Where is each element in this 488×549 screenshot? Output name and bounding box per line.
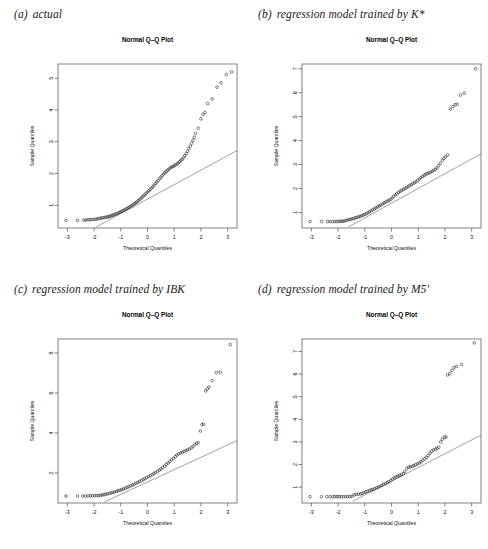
data-points xyxy=(65,71,233,222)
x-tick-label: 3 xyxy=(470,234,473,240)
data-point xyxy=(211,98,214,101)
y-tick-label: 1 xyxy=(48,204,54,207)
y-tick-label: 2 xyxy=(292,187,298,190)
y-tick-label: 7 xyxy=(292,67,298,70)
panel-c-plot: Normal Q–Q Plot-3-2-101232468Theoretical… xyxy=(0,303,244,549)
data-point xyxy=(206,102,209,105)
x-tick-label: -2 xyxy=(336,234,341,240)
y-tick-label: 8 xyxy=(48,352,54,355)
y-tick-label: 2 xyxy=(48,472,54,475)
x-tick-label: 0 xyxy=(390,509,393,515)
data-point xyxy=(459,94,462,97)
x-axis-label: Theoretical Quantiles xyxy=(367,520,416,526)
data-point xyxy=(230,71,233,74)
y-axis-label: Sample Quantiles xyxy=(29,125,35,166)
data-point xyxy=(169,460,172,463)
data-point xyxy=(216,86,219,89)
y-tick-label: 6 xyxy=(292,91,298,94)
x-tick-label: 3 xyxy=(226,509,229,515)
data-point xyxy=(202,423,205,426)
data-point xyxy=(101,494,104,497)
data-point xyxy=(326,495,329,498)
y-tick-label: 4 xyxy=(48,108,54,111)
y-tick-label: 6 xyxy=(292,373,298,376)
x-tick-label: 1 xyxy=(173,509,176,515)
y-axis-label: Sample Quantiles xyxy=(273,400,279,441)
panel-c-caption-label: (c) xyxy=(14,283,27,295)
x-tick-label: -3 xyxy=(309,234,314,240)
data-point xyxy=(439,162,442,165)
data-point xyxy=(320,495,323,498)
data-point xyxy=(199,430,202,433)
data-point xyxy=(76,495,79,498)
data-point xyxy=(220,81,223,84)
data-point xyxy=(185,152,188,155)
x-tick-label: -3 xyxy=(309,509,314,515)
data-point xyxy=(106,492,109,495)
panel-d-caption: (d)regression model trained by M5' xyxy=(258,283,429,295)
data-point xyxy=(110,492,113,495)
data-point xyxy=(84,495,87,498)
data-point xyxy=(197,127,200,130)
y-tick-label: 2 xyxy=(48,172,54,175)
qq-reference-line xyxy=(95,151,237,228)
panel-a-plot: Normal Q–Q Plot-3-2-1012312345Theoretica… xyxy=(0,28,244,274)
data-point xyxy=(446,154,449,157)
x-tick-label: -3 xyxy=(65,234,70,240)
data-point xyxy=(449,108,452,111)
data-point xyxy=(76,219,79,222)
data-point xyxy=(309,220,312,223)
data-point xyxy=(455,365,458,368)
x-tick-label: 0 xyxy=(390,234,393,240)
x-tick-label: 2 xyxy=(443,509,446,515)
data-point xyxy=(190,142,193,145)
x-tick-label: 3 xyxy=(226,234,229,240)
y-tick-label: 3 xyxy=(292,163,298,166)
x-axis-label: Theoretical Quantiles xyxy=(123,520,172,526)
panel-c-caption-text: regression model trained by IBK xyxy=(32,283,185,295)
data-point xyxy=(453,366,456,369)
data-point xyxy=(409,465,412,468)
data-point xyxy=(111,491,114,494)
panel-b-caption-label: (b) xyxy=(258,8,272,20)
data-point xyxy=(448,372,451,375)
x-axis-label: Theoretical Quantiles xyxy=(367,245,416,251)
data-point xyxy=(174,455,177,458)
panel-a-caption-text: actual xyxy=(33,8,62,20)
x-tick-label: 1 xyxy=(417,509,420,515)
data-point xyxy=(229,343,232,346)
panel-b: (b)regression model trained by K* Normal… xyxy=(244,0,488,274)
x-tick-label: -1 xyxy=(362,234,367,240)
x-tick-label: 2 xyxy=(443,234,446,240)
plot-box xyxy=(58,64,237,228)
data-point xyxy=(474,67,477,70)
y-tick-label: 3 xyxy=(48,140,54,143)
x-tick-label: 1 xyxy=(173,234,176,240)
data-point xyxy=(65,495,68,498)
data-points xyxy=(65,343,232,497)
qq-plot-figure: (a)actual Normal Q–Q Plot-3-2-1012312345… xyxy=(0,0,488,549)
x-tick-label: -1 xyxy=(362,509,367,515)
data-point xyxy=(188,147,191,150)
data-point xyxy=(215,371,218,374)
data-point xyxy=(463,92,466,95)
data-point xyxy=(460,363,463,366)
chart-title: Normal Q–Q Plot xyxy=(122,311,174,319)
chart-title: Normal Q–Q Plot xyxy=(366,311,418,319)
data-point xyxy=(103,493,106,496)
y-tick-label: 5 xyxy=(292,395,298,398)
x-tick-label: -3 xyxy=(65,509,70,515)
panel-d-caption-label: (d) xyxy=(258,283,272,295)
y-tick-label: 5 xyxy=(292,115,298,118)
panel-b-caption-text: regression model trained by K* xyxy=(277,8,425,20)
data-point xyxy=(219,371,222,374)
y-tick-label: 7 xyxy=(292,350,298,353)
y-tick-label: 4 xyxy=(292,139,298,142)
chart-title: Normal Q–Q Plot xyxy=(122,36,174,44)
y-tick-label: 1 xyxy=(292,486,298,489)
data-point xyxy=(473,342,476,345)
data-point xyxy=(193,136,196,139)
y-tick-label: 5 xyxy=(48,77,54,80)
data-point xyxy=(326,220,329,223)
data-point xyxy=(211,379,214,382)
